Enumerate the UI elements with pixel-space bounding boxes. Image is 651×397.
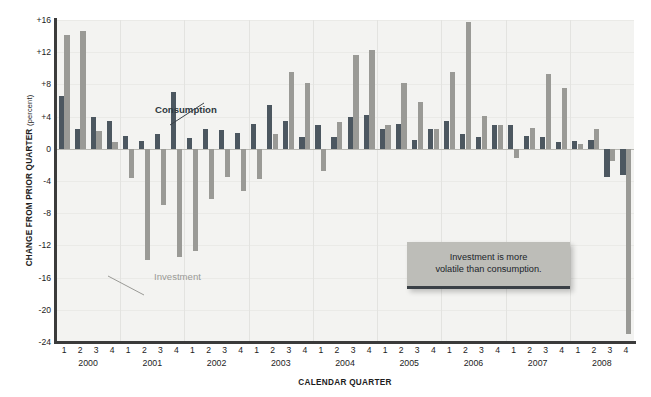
quarter-label: 1 [254, 345, 259, 355]
quarter-label: 1 [575, 345, 580, 355]
y-axis-line [54, 18, 57, 344]
quarter-label: 2 [335, 345, 340, 355]
quarter-label: 1 [447, 345, 452, 355]
year-tick-labels: 200020012002200320042005200620072008 [56, 358, 634, 372]
chart-figure: CHANGE FROM PRIOR QUARTER (percent) +16+… [0, 0, 651, 397]
quarter-label: 3 [608, 345, 613, 355]
quarter-label: 4 [367, 345, 372, 355]
y-tick-label: -16 [5, 273, 51, 283]
y-tick-label: -8 [5, 208, 51, 218]
quarter-label: 4 [495, 345, 500, 355]
y-tick-label: +16 [5, 15, 51, 25]
quarter-label: 2 [591, 345, 596, 355]
year-label: 2003 [271, 358, 291, 368]
y-tick-label: -20 [5, 305, 51, 315]
quarter-label: 4 [302, 345, 307, 355]
quarter-label: 1 [319, 345, 324, 355]
quarter-label: 3 [286, 345, 291, 355]
year-label: 2004 [335, 358, 355, 368]
y-tick-label: -12 [5, 240, 51, 250]
quarter-label: 1 [126, 345, 131, 355]
callout-line-1: Investment is more [413, 251, 564, 263]
y-tick-label: -4 [5, 176, 51, 186]
callout-line-2: volatile than consumption. [413, 263, 564, 275]
year-label: 2005 [399, 358, 419, 368]
y-tick-label: -24 [5, 337, 51, 347]
quarter-label: 2 [463, 345, 468, 355]
quarter-label: 2 [399, 345, 404, 355]
quarter-label: 1 [511, 345, 516, 355]
quarter-label: 1 [190, 345, 195, 355]
y-tick-label: 0 [5, 144, 51, 154]
y-tick-labels: +16+12+8+40-4-8-12-16-20-24 [0, 0, 51, 397]
quarter-label: 3 [222, 345, 227, 355]
plot-area: Consumption Investment Investment is mor… [56, 20, 634, 342]
x-axis-line [54, 341, 636, 344]
quarter-label: 2 [142, 345, 147, 355]
callout-box: Investment is more volatile than consump… [407, 242, 570, 289]
quarter-label: 4 [559, 345, 564, 355]
quarter-label: 1 [383, 345, 388, 355]
quarter-tick-labels: 123412341234123412341234123412341234 [56, 345, 634, 359]
quarter-label: 2 [527, 345, 532, 355]
quarter-label: 2 [78, 345, 83, 355]
quarter-label: 3 [158, 345, 163, 355]
quarter-label: 4 [174, 345, 179, 355]
quarter-label: 1 [62, 345, 67, 355]
year-label: 2002 [207, 358, 227, 368]
quarter-label: 4 [431, 345, 436, 355]
quarter-label: 4 [238, 345, 243, 355]
quarter-label: 4 [624, 345, 629, 355]
quarter-label: 3 [543, 345, 548, 355]
y-tick-label: +12 [5, 47, 51, 57]
consumption-leader-line [56, 20, 634, 342]
year-label: 2007 [528, 358, 548, 368]
quarter-label: 3 [479, 345, 484, 355]
year-label: 2000 [78, 358, 98, 368]
year-label: 2001 [143, 358, 163, 368]
quarter-label: 3 [351, 345, 356, 355]
quarter-label: 3 [94, 345, 99, 355]
y-tick-label: +4 [5, 112, 51, 122]
year-label: 2006 [464, 358, 484, 368]
year-label: 2008 [592, 358, 612, 368]
quarter-label: 3 [415, 345, 420, 355]
y-tick-label: +8 [5, 79, 51, 89]
quarter-label: 2 [270, 345, 275, 355]
quarter-label: 2 [206, 345, 211, 355]
x-axis-title: CALENDAR QUARTER [56, 378, 634, 387]
quarter-label: 4 [110, 345, 115, 355]
